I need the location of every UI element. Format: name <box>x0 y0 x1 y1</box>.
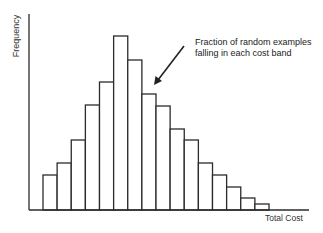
histogram-bar <box>156 106 170 210</box>
annotation-arrow-icon <box>154 46 184 85</box>
histogram-bars <box>43 36 269 210</box>
annotation-line-2: falling in each cost band <box>195 48 312 59</box>
histogram-chart <box>0 0 323 233</box>
histogram-bar <box>142 94 156 210</box>
histogram-bar <box>128 60 142 210</box>
histogram-bar <box>71 140 85 210</box>
y-axis-label: Frequency <box>11 15 21 58</box>
histogram-bar <box>114 36 128 210</box>
histogram-bar <box>85 105 99 210</box>
histogram-bar <box>241 198 255 210</box>
annotation-line-1: Fraction of random examples <box>195 37 312 48</box>
histogram-bar <box>227 187 241 210</box>
histogram-bar <box>100 82 114 210</box>
histogram-bar <box>43 175 57 210</box>
histogram-bar <box>198 163 212 210</box>
histogram-bar <box>184 140 198 210</box>
histogram-bar <box>255 204 269 210</box>
histogram-bar <box>57 163 71 210</box>
histogram-bar <box>213 175 227 210</box>
x-axis-label: Total Cost <box>265 213 303 223</box>
annotation-text: Fraction of random examples falling in e… <box>195 37 312 58</box>
histogram-bar <box>170 129 184 210</box>
